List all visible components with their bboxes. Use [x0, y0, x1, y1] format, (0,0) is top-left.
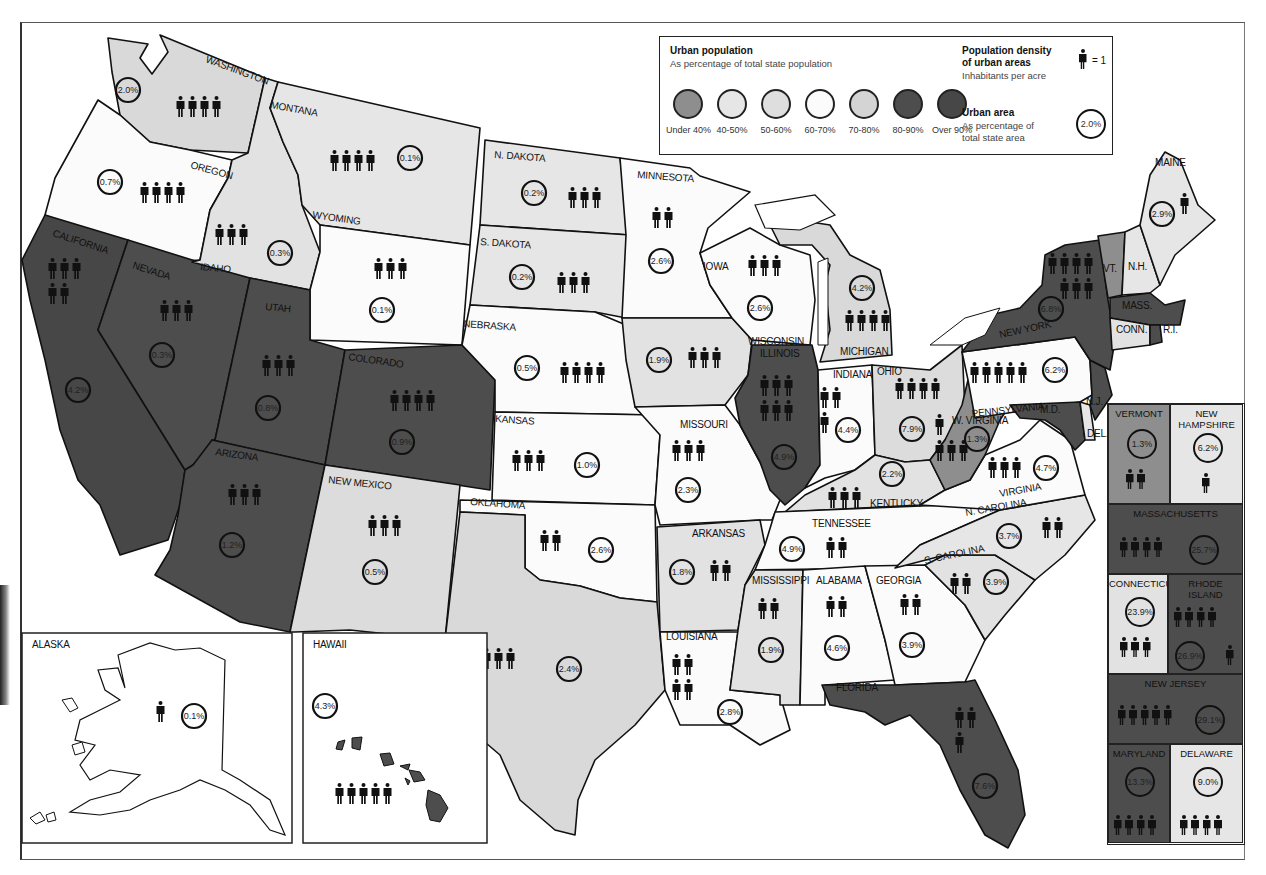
state-label-de: DEL.	[1087, 428, 1108, 439]
legend: Urban population As percentage of total …	[659, 36, 1113, 155]
inset-urban-area-circle: 9.0%	[1193, 767, 1223, 797]
urban-area-pct-me: 2.9%	[1152, 209, 1173, 219]
inset-density-figures	[1125, 469, 1148, 489]
legend-swatch: 50-60%	[754, 89, 798, 135]
person-icon	[1191, 815, 1200, 835]
alaska-urban-area-pct: 0.1%	[184, 711, 205, 721]
state-label-ia: IOWA	[703, 261, 729, 272]
urban-area-pct-il: 4.9%	[774, 452, 795, 462]
state-label-ma: MASS.	[1122, 300, 1152, 311]
inset-density-figures	[1113, 815, 1159, 835]
urban-area-pct-nd: 0.2%	[524, 188, 545, 198]
state-fl[interactable]	[822, 680, 1025, 848]
urban-area-pct-wy: 0.1%	[372, 305, 393, 315]
state-label-wi: WISCONSIN	[748, 336, 804, 347]
inset-cell-new-hampshire[interactable]: NEWHAMPSHIRE6.2%	[1170, 404, 1243, 504]
urban-area-pct-va: 4.7%	[1036, 463, 1057, 473]
urban-area-pct-wv: 1.3%	[967, 434, 988, 444]
urban-area-pct-ms: 1.9%	[761, 645, 782, 655]
inset-state-name: RHODEISLAND	[1169, 578, 1242, 600]
inset-density-figures	[1179, 815, 1225, 835]
legend-swatch: 80-90%	[886, 89, 930, 135]
person-icon	[1136, 815, 1145, 835]
northeast-inset: VERMONT1.3%NEWHAMPSHIRE6.2%MASSACHUSETTS…	[1107, 403, 1245, 845]
person-icon	[1131, 537, 1140, 557]
legend-swatch: 70-80%	[842, 89, 886, 135]
urban-area-pct-az: 1.2%	[222, 540, 243, 550]
inset-density-figures	[1173, 607, 1219, 627]
urban-area-pct-fl: 7.6%	[975, 781, 996, 791]
urban-area-pct-ny: 6.8%	[1041, 304, 1062, 314]
urban-area-pct-mi: 4.2%	[852, 283, 873, 293]
person-icon	[1137, 469, 1146, 489]
person-icon	[1129, 705, 1138, 725]
urban-area-pct-mo: 2.3%	[678, 485, 699, 495]
inset-density-figures	[1117, 705, 1175, 725]
state-label-oh: OHIO	[877, 366, 902, 377]
inset-state-name: MASSACHUSETTS	[1109, 508, 1242, 519]
hawaii-urban-area-pct: 4.3%	[315, 701, 336, 711]
legend-density-key: = 1	[1092, 55, 1106, 66]
state-label-in: INDIANA	[833, 369, 873, 380]
person-icon	[1163, 705, 1172, 725]
inset-state-name: CONNECTICUT	[1109, 578, 1167, 589]
person-icon	[1148, 815, 1157, 835]
state-label-mo: MISSOURI	[680, 419, 728, 430]
state-ia[interactable]	[622, 318, 752, 407]
inset-density-figures	[1201, 473, 1213, 493]
legend-swatch-circle	[805, 89, 835, 119]
inset-density-figures	[1119, 637, 1154, 657]
urban-area-pct-co: 0.9%	[392, 437, 413, 447]
legend-density-title: Population density of urban areas	[962, 45, 1062, 69]
urban-area-pct-pa: 6.2%	[1045, 365, 1066, 375]
inset-urban-area-circle: 13.3%	[1125, 767, 1155, 797]
legend-swatch-circle	[893, 89, 923, 119]
person-icon	[1225, 645, 1234, 665]
state-label-me: MAINE	[1155, 157, 1186, 168]
person-icon	[1201, 473, 1210, 493]
urban-area-pct-ne: 0.5%	[517, 363, 538, 373]
urban-area-pct-ok: 2.6%	[591, 545, 612, 555]
legend-urban-population-subtitle: As percentage of total state population	[670, 58, 832, 69]
person-icon	[1131, 637, 1140, 657]
inset-state-name: NEW JERSEY	[1109, 678, 1242, 689]
legend-swatch-label: 50-60%	[754, 125, 798, 135]
inset-state-name: DELAWARE	[1171, 748, 1242, 759]
state-label-ct: CONN.	[1116, 324, 1147, 335]
legend-swatch: Under 40%	[666, 89, 710, 135]
inset-cell-new-jersey[interactable]: NEW JERSEY29.1%	[1108, 674, 1243, 744]
state-ri[interactable]	[1150, 325, 1162, 345]
inset-cell-vermont[interactable]: VERMONT1.3%	[1108, 404, 1170, 504]
inset-cell-rhode-island[interactable]: RHODEISLAND26.9%	[1168, 574, 1243, 674]
person-icon	[1142, 537, 1151, 557]
legend-urban-population-title: Urban population	[670, 45, 753, 56]
inset-cell-maryland[interactable]: MARYLAND13.3%	[1108, 744, 1170, 843]
urban-area-pct-sd: 0.2%	[512, 272, 533, 282]
urban-area-pct-nc: 3.7%	[999, 531, 1020, 541]
state-label-ar: ARKANSAS	[692, 528, 745, 539]
person-icon	[1140, 705, 1149, 725]
inset-urban-area-circle: 6.2%	[1193, 433, 1223, 463]
inset-urban-area-circle: 29.1%	[1195, 705, 1225, 735]
hawaii-label: HAWAII	[313, 639, 347, 650]
urban-area-pct-wi: 2.6%	[750, 303, 771, 313]
urban-area-pct-oh: 7.9%	[902, 424, 923, 434]
inset-cell-connecticut[interactable]: CONNECTICUT23.9%	[1108, 574, 1168, 674]
urban-area-pct-in: 4.4%	[838, 425, 859, 435]
state-label-tn: TENNESSEE	[812, 518, 871, 529]
person-icon	[1185, 607, 1194, 627]
legend-swatches: Under 40%40-50%50-60%60-70%70-80%80-90%O…	[666, 89, 974, 135]
inset-cell-massachusetts[interactable]: MASSACHUSETTS25.7%	[1108, 504, 1243, 574]
urban-area-pct-sc: 3.9%	[986, 577, 1007, 587]
legend-swatch-circle	[849, 89, 879, 119]
state-wy[interactable]	[310, 225, 470, 345]
inset-density-figures	[1119, 537, 1165, 557]
state-label-md: M.D.	[1040, 404, 1060, 415]
person-icon	[1173, 607, 1182, 627]
legend-swatch-label: 40-50%	[710, 125, 754, 135]
legend-urban-area-circle: 2.0%	[1076, 109, 1106, 139]
inset-cell-delaware[interactable]: DELAWARE9.0%	[1170, 744, 1243, 843]
person-icon	[1214, 815, 1223, 835]
legend-urban-area-title: Urban area	[962, 107, 1014, 118]
inset-urban-area-circle: 26.9%	[1175, 641, 1205, 671]
